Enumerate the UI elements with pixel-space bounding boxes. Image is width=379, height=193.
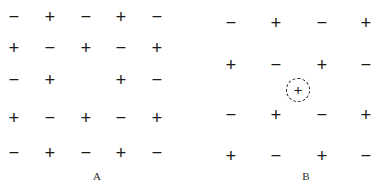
lattice-anion-site: −: [222, 106, 240, 124]
lattice-cation-site: +: [112, 71, 130, 89]
lattice-panel-b: −+−++−+−−+−++−+− + B: [190, 0, 379, 193]
lattice-anion-site: −: [148, 71, 166, 89]
lattice-anion-site: −: [41, 39, 59, 57]
lattice-cation-site: +: [267, 14, 285, 32]
lattice-anion-site: −: [5, 8, 23, 26]
lattice-cation-site: +: [77, 109, 95, 127]
lattice-anion-site: −: [41, 109, 59, 127]
lattice-cation-site: +: [222, 56, 240, 74]
lattice-cation-site: +: [77, 39, 95, 57]
lattice-anion-site: −: [148, 8, 166, 26]
lattice-cation-site: +: [112, 144, 130, 162]
lattice-anion-site: −: [5, 144, 23, 162]
lattice-anion-site: −: [222, 14, 240, 32]
lattice-cation-site: +: [41, 144, 59, 162]
lattice-cation-site: +: [267, 106, 285, 124]
lattice-anion-site: −: [148, 144, 166, 162]
lattice-anion-site: −: [112, 109, 130, 127]
lattice-cation-site: +: [112, 8, 130, 26]
lattice-cation-site: +: [222, 147, 240, 165]
lattice-anion-site: −: [357, 147, 375, 165]
lattice-cation-site: +: [357, 14, 375, 32]
lattice-anion-site: −: [5, 71, 23, 89]
lattice-anion-site: −: [77, 144, 95, 162]
lattice-cation-site: +: [5, 109, 23, 127]
panel-b-label: B: [294, 170, 318, 182]
lattice-cation-site: +: [357, 106, 375, 124]
lattice-cation-site: +: [313, 56, 331, 74]
lattice-anion-site: −: [267, 147, 285, 165]
lattice-anion-site: −: [112, 39, 130, 57]
lattice-cation-site: +: [5, 39, 23, 57]
interstitial-cation: +: [286, 78, 310, 102]
lattice-anion-site: −: [313, 14, 331, 32]
lattice-anion-site: −: [77, 8, 95, 26]
interstitial-defect: +: [286, 78, 310, 102]
lattice-cation-site: +: [148, 109, 166, 127]
panel-a-label: A: [85, 170, 109, 182]
lattice-cation-site: +: [313, 147, 331, 165]
lattice-anion-site: −: [313, 106, 331, 124]
lattice-anion-site: −: [357, 56, 375, 74]
lattice-anion-site: −: [267, 56, 285, 74]
lattice-cation-site: +: [148, 39, 166, 57]
lattice-panel-a: −+−+−+−+−+−++−+−+−+−+−+− A: [0, 0, 190, 193]
lattice-defects-diagram: −+−+−+−+−+−++−+−+−+−+−+− A −+−++−+−−+−++…: [0, 0, 379, 193]
lattice-cation-site: +: [41, 8, 59, 26]
lattice-cation-site: +: [41, 71, 59, 89]
lattice-vacancy-site: [77, 71, 95, 89]
